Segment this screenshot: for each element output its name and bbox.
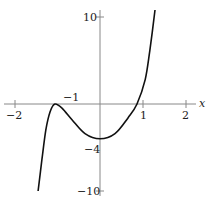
annotation-neg1: −1 <box>63 91 79 104</box>
x-axis-label: x <box>199 97 206 110</box>
x-tick-label-1: 1 <box>140 109 147 122</box>
function-curve <box>38 10 155 191</box>
x-tick-label-2: 2 <box>182 109 189 122</box>
annotation-neg4: −4 <box>84 143 100 156</box>
y-tick-label-10: 10 <box>83 11 97 24</box>
chart: −2 1 2 x 10 −10 −1 −4 <box>0 0 208 198</box>
y-tick-label-neg10: −10 <box>77 185 100 198</box>
x-tick-label-neg2: −2 <box>6 109 22 122</box>
